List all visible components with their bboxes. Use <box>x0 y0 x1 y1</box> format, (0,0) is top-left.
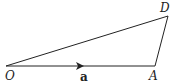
vector-diagram: O a A D <box>0 0 176 84</box>
segment-ad <box>155 16 168 66</box>
segment-od <box>6 16 168 66</box>
label-vector-a: a <box>80 70 88 84</box>
label-o: O <box>5 69 15 83</box>
label-d: D <box>159 1 170 15</box>
label-a: A <box>148 69 158 83</box>
